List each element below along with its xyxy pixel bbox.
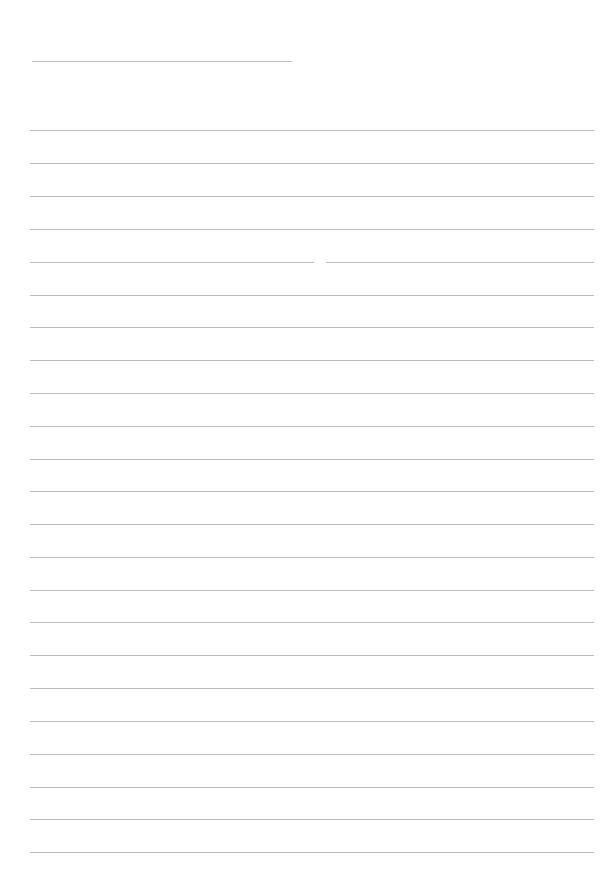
rule-line [30,557,594,558]
rule-line [30,852,594,853]
rule-line [326,262,594,263]
rule-line [30,295,594,296]
rule-line [30,163,594,164]
rule-line [30,130,594,131]
rule-line [30,262,314,263]
rule-line [30,655,594,656]
rule-line [30,327,594,328]
rule-line [30,360,594,361]
rule-line [30,393,594,394]
rule-line [30,590,594,591]
header-line [32,61,292,62]
rule-line [30,688,594,689]
rule-line [30,524,594,525]
rule-line [30,196,594,197]
rule-line [30,491,594,492]
rule-line [30,229,594,230]
rule-line [30,622,594,623]
rule-line [30,459,594,460]
rule-line [30,819,594,820]
rule-line [30,787,594,788]
rule-line [30,721,594,722]
rule-line [30,754,594,755]
rule-line [30,426,594,427]
